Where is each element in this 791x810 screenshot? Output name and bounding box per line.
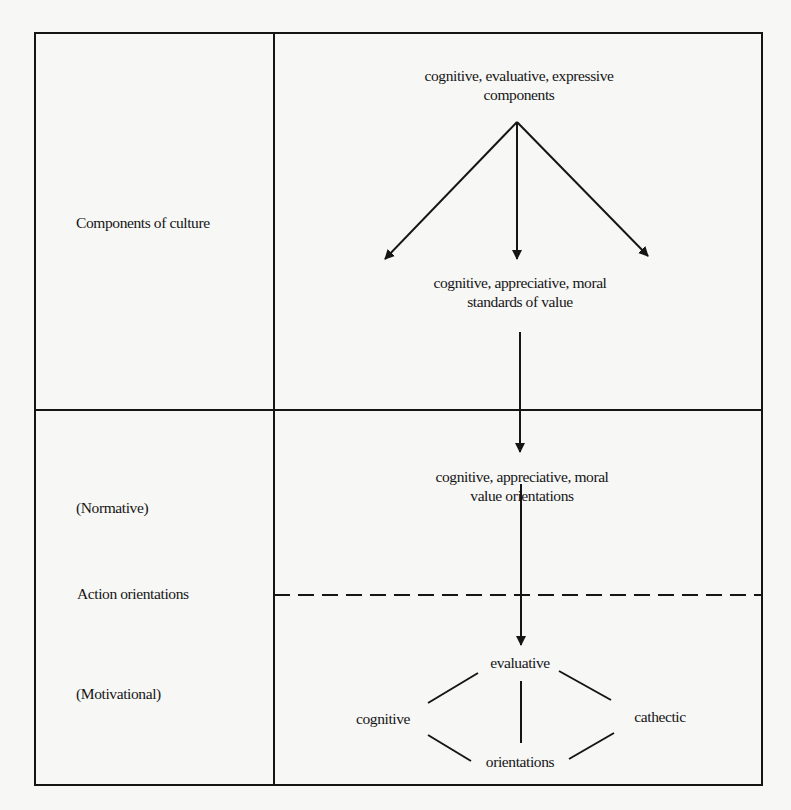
label-components: cognitive, evaluative, expressive compon…	[424, 66, 613, 104]
label-cognitive: cognitive	[356, 709, 410, 728]
label-standards-line1: cognitive, appreciative, moral	[433, 273, 606, 292]
label-value-orient-line2: value orientations	[435, 486, 608, 505]
label-evaluative: evaluative	[490, 653, 550, 672]
label-cathectic: cathectic	[634, 707, 685, 726]
label-value-orient-line1: cognitive, appreciative, moral	[435, 467, 608, 486]
label-standards-line2: standards of value	[433, 292, 606, 311]
label-components-line2: components	[424, 85, 613, 104]
label-components-line1: cognitive, evaluative, expressive	[424, 66, 613, 85]
label-value-orientations: cognitive, appreciative, moral value ori…	[435, 467, 608, 505]
arrow-left	[385, 122, 517, 259]
label-standards-of-value: cognitive, appreciative, moral standards…	[433, 273, 606, 311]
label-motivational: (Motivational)	[76, 684, 161, 703]
label-action-orientations: Action orientations	[77, 584, 189, 603]
connector-evaluative-cognitive	[428, 673, 478, 703]
connector-cathectic-orientations	[569, 733, 614, 759]
label-orientations: orientations	[486, 752, 554, 771]
arrow-right	[517, 122, 648, 256]
label-normative: (Normative)	[76, 498, 148, 517]
label-components-of-culture: Components of culture	[76, 213, 210, 232]
connector-evaluative-cathectic	[559, 671, 611, 700]
connector-cognitive-orientations	[428, 735, 471, 761]
